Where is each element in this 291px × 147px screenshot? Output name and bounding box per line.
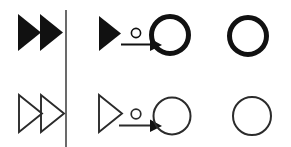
outline-triangle-icon xyxy=(41,95,64,132)
row-bold xyxy=(18,14,267,55)
row-thin xyxy=(19,95,271,135)
thick-circle-icon xyxy=(230,18,267,55)
cell-bold-double-triangle xyxy=(18,14,63,51)
filled-triangle-icon xyxy=(99,16,121,51)
cell-thin-circle xyxy=(233,97,271,135)
filled-triangle-icon xyxy=(40,14,63,51)
cell-bold-triangle-arrow-circle xyxy=(99,16,189,54)
cell-thin-triangle-arrow-circle xyxy=(99,95,191,135)
filled-triangle-icon xyxy=(18,14,41,51)
cell-thin-double-triangle xyxy=(19,95,64,132)
cell-bold-circle xyxy=(230,18,267,55)
thin-circle-icon xyxy=(233,97,271,135)
thin-circle-icon xyxy=(154,98,191,135)
figure-root: Abstract glyph diagram: filled (bold) va… xyxy=(0,0,291,147)
small-circle-icon xyxy=(131,28,140,37)
thick-circle-icon xyxy=(152,17,189,54)
outline-triangle-icon xyxy=(99,95,122,132)
small-circle-icon xyxy=(131,109,141,119)
outline-triangle-icon xyxy=(19,95,42,132)
glyph-diagram-svg xyxy=(0,0,291,147)
